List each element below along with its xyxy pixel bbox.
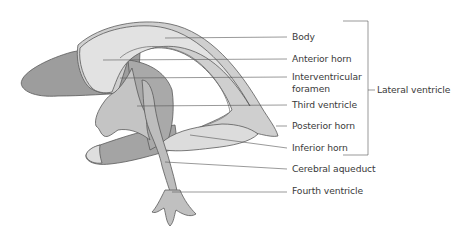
label-anterior-horn: Anterior horn: [292, 53, 352, 64]
ventricle-illustration: [21, 22, 278, 226]
label-fourth-ventricle: Fourth ventricle: [292, 185, 363, 196]
leader-cerebral-aqueduct: [165, 162, 287, 169]
label-inferior-horn: Inferior horn: [292, 142, 348, 153]
label-interventricular-line1: Interventricular: [292, 71, 362, 82]
label-third-ventricle: Third ventricle: [292, 99, 357, 110]
label-cerebral-aqueduct: Cerebral aqueduct: [292, 163, 376, 174]
label-interventricular-line2: foramen: [292, 83, 330, 94]
label-lateral-ventricle: Lateral ventricle: [377, 84, 450, 95]
lateral-ventricle-bracket: [343, 21, 368, 155]
label-body: Body: [292, 31, 315, 42]
label-posterior-horn: Posterior horn: [292, 120, 355, 131]
ventricles-diagram: [0, 0, 463, 241]
fourth-ventricle: [152, 190, 196, 226]
